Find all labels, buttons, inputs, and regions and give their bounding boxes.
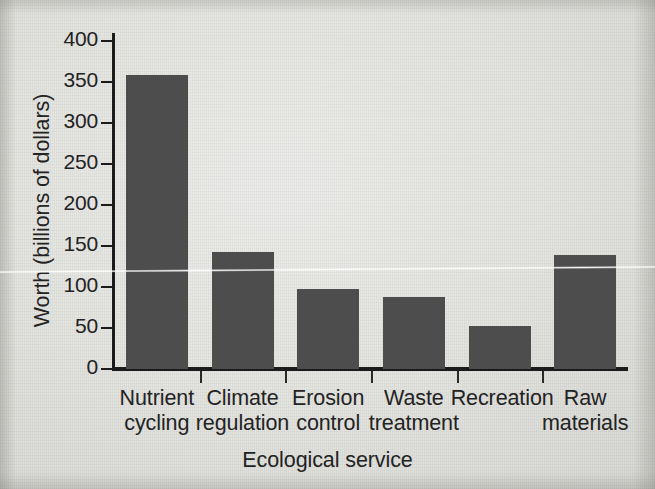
y-axis-tick — [101, 204, 113, 206]
x-axis-category-label: Climateregulation — [194, 386, 292, 436]
x-axis-category-label: Rawmaterials — [536, 386, 634, 436]
x-axis-category-label: Erosioncontrol — [279, 386, 377, 436]
bar-chart-plot-area: 050100150200250300350400 Nutrientcycling… — [0, 0, 655, 489]
y-axis-line — [112, 33, 115, 370]
x-axis-tick — [542, 371, 544, 383]
category-label-line1: Recreation — [451, 386, 549, 411]
x-axis-category-label: Recreation — [451, 386, 549, 411]
category-label-line2: control — [279, 411, 377, 436]
category-label-line1: Raw — [536, 386, 634, 411]
category-label-line2: cycling — [108, 411, 206, 436]
x-axis-tick — [371, 371, 373, 383]
category-label-line1: Erosion — [279, 386, 377, 411]
y-axis-tick — [101, 163, 113, 165]
x-axis-tick — [457, 371, 459, 383]
y-axis-tick — [101, 368, 113, 370]
y-axis-tick — [101, 286, 113, 288]
bar[interactable] — [554, 255, 616, 369]
bar[interactable] — [212, 252, 274, 369]
y-axis-tick — [101, 245, 113, 247]
y-axis-tick — [101, 81, 113, 83]
y-axis-tick — [101, 327, 113, 329]
category-label-line2: materials — [536, 411, 634, 436]
x-axis-category-label: Wastetreatment — [365, 386, 463, 436]
category-label-line2: regulation — [194, 411, 292, 436]
y-axis-title: Worth (billions of dollars) — [30, 61, 55, 361]
category-label-line1: Waste — [365, 386, 463, 411]
category-label-line1: Climate — [194, 386, 292, 411]
x-axis-line — [112, 367, 628, 371]
y-axis-tick — [101, 40, 113, 42]
category-label-line2: treatment — [365, 411, 463, 436]
bar[interactable] — [469, 326, 531, 369]
x-axis-tick — [285, 371, 287, 383]
bar[interactable] — [297, 289, 359, 369]
x-axis-tick — [200, 371, 202, 383]
category-label-line1: Nutrient — [108, 386, 206, 411]
figure-canvas: 050100150200250300350400 Nutrientcycling… — [0, 0, 655, 489]
bar[interactable] — [383, 297, 445, 369]
y-axis-tick-label: 400 — [44, 27, 98, 51]
y-axis-tick — [101, 122, 113, 124]
x-axis-title: Ecological service — [0, 448, 655, 473]
x-axis-category-label: Nutrientcycling — [108, 386, 206, 436]
bar[interactable] — [126, 75, 188, 369]
